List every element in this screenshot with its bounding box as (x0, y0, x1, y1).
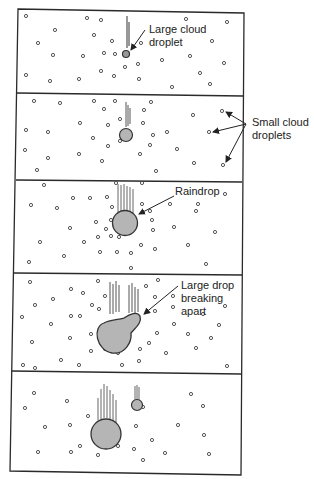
fall-streak-small (135, 385, 139, 401)
label-small-cloud-droplets-1: Small cloud (252, 116, 309, 128)
fall-streak (110, 281, 138, 314)
growing-droplet (120, 129, 133, 142)
small-drop (132, 400, 143, 411)
fall-streak-large (98, 384, 116, 424)
fall-streak (127, 16, 129, 48)
panel-2: Small cloud droplets (23, 99, 308, 172)
label-breaking-apart-3: apart (181, 305, 206, 317)
label-breaking-apart-2: breaking (181, 292, 223, 304)
panel-frame (10, 9, 244, 475)
label-large-cloud-droplet-2: droplet (149, 36, 183, 48)
panel-4: Large drop breaking apart (20, 278, 234, 369)
label-small-cloud-droplets-2: droplets (252, 129, 292, 141)
panel-3: Raindrop (27, 181, 226, 269)
large-drop (91, 419, 121, 449)
label-breaking-apart-1: Large drop (181, 279, 234, 291)
label-raindrop: Raindrop (175, 185, 220, 197)
panel-1: Large cloud droplet (24, 14, 228, 88)
raindrop (113, 211, 138, 236)
panel-5 (23, 384, 210, 462)
large-cloud-droplet (123, 51, 130, 58)
fall-streak (126, 102, 130, 127)
fall-streak (118, 184, 133, 214)
label-large-cloud-droplet-1: Large cloud (149, 23, 207, 35)
raindrop-formation-diagram: Large cloud droplet Small cloud droplets (0, 0, 314, 479)
large-drop-breaking-apart (97, 313, 140, 353)
